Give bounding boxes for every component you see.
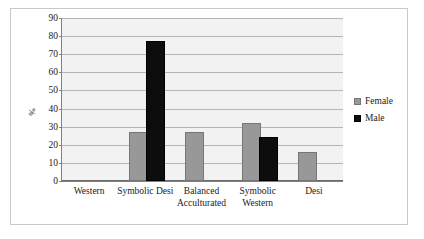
x-axis-category-label: Desi [278,185,350,197]
y-axis-tick-mark [59,181,62,182]
bar-male [146,41,165,181]
bar-group [118,18,174,181]
bar-female [298,152,317,181]
bar-male [259,137,278,181]
legend-item-male[interactable]: Male [354,111,409,125]
y-axis-tick-label: 60 [49,67,59,77]
bar-group [174,18,230,181]
legend-item-female[interactable]: Female [354,94,409,108]
y-axis-tick-labels: 9080706050403020100 [35,18,61,182]
plot-area [61,18,343,182]
bar-group [62,18,118,181]
bar-group [287,18,343,181]
bar-group [231,18,287,181]
legend-label: Male [365,113,385,123]
y-axis-tick-label: 50 [49,85,59,95]
bar-chart: % 9080706050403020100 WesternSymbolic De… [11,9,409,226]
legend-swatch-female-icon [354,98,361,105]
y-axis-tick-label: 40 [49,104,59,114]
bars-layer [62,18,343,181]
chart-figure-frame: % 9080706050403020100 WesternSymbolic De… [10,8,408,225]
bar-female [185,132,204,181]
y-axis-tick-label: 10 [49,158,59,168]
y-axis-tick-label: 80 [49,31,59,41]
x-axis-category-labels: WesternSymbolic DesiBalanced Acculturate… [61,185,342,221]
legend-swatch-male-icon [354,115,361,122]
chart-legend: FemaleMale [354,94,409,128]
y-axis-tick-label: 20 [49,140,59,150]
y-axis-tick-label: 70 [49,49,59,59]
y-axis-tick-label: 30 [49,122,59,132]
legend-label: Female [365,96,393,106]
y-axis-tick-label: 90 [49,13,59,23]
